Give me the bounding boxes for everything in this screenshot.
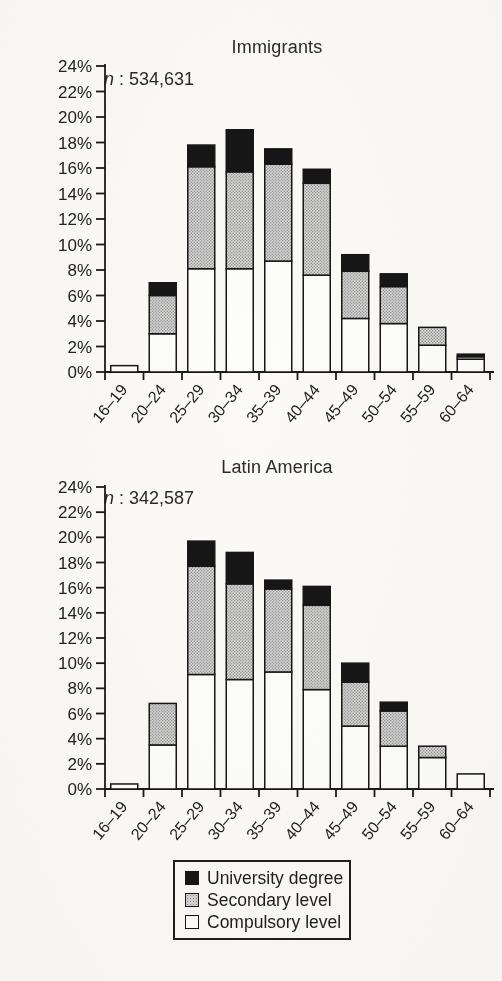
y-tick-label: 22% xyxy=(58,83,92,102)
x-tick-label: 45–49 xyxy=(320,381,362,426)
y-tick-label: 20% xyxy=(58,528,92,547)
bar-35-39 xyxy=(265,149,292,372)
bar-25-29 xyxy=(188,541,215,789)
y-tick-label: 4% xyxy=(67,312,92,331)
y-tick-label: 24% xyxy=(58,57,92,76)
chart-latin-america: 0%2%4%6%8%10%12%14%16%18%20%22%24%16–192… xyxy=(58,478,494,843)
bar-segment xyxy=(149,283,176,296)
bar-segment xyxy=(457,354,484,357)
bars xyxy=(111,541,485,789)
y-tick-label: 16% xyxy=(58,159,92,178)
x-axis-labels: 16–1920–2425–2930–3435–3940–4445–4950–54… xyxy=(89,381,477,426)
bar-segment xyxy=(188,269,215,372)
chart-immigrants: 0%2%4%6%8%10%12%14%16%18%20%22%24%16–192… xyxy=(58,57,494,426)
bar-segment xyxy=(419,746,446,757)
bar-segment xyxy=(303,690,330,789)
y-tick-label: 14% xyxy=(58,604,92,623)
y-tick-label: 12% xyxy=(58,629,92,648)
x-tick-label: 50–54 xyxy=(358,798,400,843)
legend: University degree Secondary level Compul… xyxy=(173,860,351,940)
university-degree-swatch-icon xyxy=(185,871,199,885)
bar-25-29 xyxy=(188,145,215,372)
legend-label: Secondary level xyxy=(207,891,332,909)
bar-segment xyxy=(111,784,138,789)
bar-50-54 xyxy=(380,702,407,789)
bar-segment xyxy=(226,269,253,372)
bar-segment xyxy=(457,359,484,372)
x-tick-label: 25–29 xyxy=(166,798,208,843)
y-tick-label: 8% xyxy=(67,679,92,698)
bar-segment xyxy=(419,758,446,789)
bar-segment xyxy=(265,580,292,589)
x-tick-label: 40–44 xyxy=(281,381,323,426)
x-tick-label: 45–49 xyxy=(320,798,362,843)
x-tick-label: 16–19 xyxy=(89,798,131,843)
bar-segment xyxy=(149,703,176,745)
bar-16-19 xyxy=(111,366,138,372)
bar-segment xyxy=(226,130,253,172)
bar-segment xyxy=(188,167,215,269)
bar-20-24 xyxy=(149,283,176,372)
bar-segment xyxy=(188,145,215,167)
bar-20-24 xyxy=(149,703,176,789)
y-tick-label: 16% xyxy=(58,579,92,598)
bar-segment xyxy=(380,702,407,711)
x-tick-label: 55–59 xyxy=(397,381,439,426)
y-tick-label: 8% xyxy=(67,261,92,280)
bar-segment xyxy=(419,327,446,345)
bar-segment xyxy=(380,324,407,372)
bar-45-49 xyxy=(342,663,369,789)
bar-50-54 xyxy=(380,274,407,372)
bar-segment xyxy=(226,584,253,680)
y-tick-label: 24% xyxy=(58,478,92,497)
bar-60-64 xyxy=(457,354,484,372)
bar-segment xyxy=(265,589,292,672)
x-tick-label: 35–39 xyxy=(243,798,285,843)
bar-segment xyxy=(149,334,176,372)
y-tick-label: 22% xyxy=(58,503,92,522)
y-tick-label: 4% xyxy=(67,730,92,749)
bar-60-64 xyxy=(457,774,484,789)
bar-segment xyxy=(188,541,215,566)
bar-segment xyxy=(265,261,292,372)
bar-35-39 xyxy=(265,580,292,789)
bar-segment xyxy=(303,586,330,605)
y-tick-label: 18% xyxy=(58,554,92,573)
secondary-level-swatch-icon xyxy=(185,893,199,907)
legend-item-compulsory: Compulsory level xyxy=(185,913,349,931)
bar-segment xyxy=(226,172,253,269)
bar-30-34 xyxy=(226,130,253,372)
y-tick-label: 12% xyxy=(58,210,92,229)
x-tick-label: 30–34 xyxy=(204,381,246,426)
stacked-bar-charts-canvas: 0%2%4%6%8%10%12%14%16%18%20%22%24%16–192… xyxy=(0,0,502,981)
bar-segment xyxy=(226,552,253,583)
y-tick-label: 0% xyxy=(67,363,92,382)
bar-segment xyxy=(188,674,215,789)
bar-40-44 xyxy=(303,169,330,372)
y-axis-ticks: 0%2%4%6%8%10%12%14%16%18%20%22%24% xyxy=(58,57,105,382)
x-tick-label: 55–59 xyxy=(397,798,439,843)
bar-segment xyxy=(380,711,407,746)
bar-segment xyxy=(226,680,253,789)
y-tick-label: 18% xyxy=(58,134,92,153)
bar-segment xyxy=(342,682,369,726)
x-tick-label: 20–24 xyxy=(127,381,169,426)
y-tick-label: 6% xyxy=(67,287,92,306)
bar-segment xyxy=(342,663,369,682)
x-tick-label: 35–39 xyxy=(243,381,285,426)
bar-segment xyxy=(303,169,330,183)
y-tick-label: 10% xyxy=(58,654,92,673)
bar-16-19 xyxy=(111,784,138,789)
x-tick-label: 60–64 xyxy=(435,798,477,843)
y-tick-label: 20% xyxy=(58,108,92,127)
y-tick-label: 10% xyxy=(58,236,92,255)
y-tick-label: 6% xyxy=(67,705,92,724)
bar-55-59 xyxy=(419,327,446,372)
y-axis-ticks: 0%2%4%6%8%10%12%14%16%18%20%22%24% xyxy=(58,478,105,799)
bar-segment xyxy=(111,366,138,372)
x-axis-ticks xyxy=(105,372,490,380)
bar-segment xyxy=(265,672,292,789)
x-axis-ticks xyxy=(105,789,490,797)
bar-segment xyxy=(303,275,330,372)
bar-segment xyxy=(149,296,176,334)
